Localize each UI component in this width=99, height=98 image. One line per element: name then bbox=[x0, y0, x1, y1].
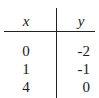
cell-y-1: -1 bbox=[66, 61, 90, 77]
header-x: x bbox=[11, 13, 41, 29]
cell-y-0: -2 bbox=[66, 43, 90, 59]
cell-x-0: 0 bbox=[11, 43, 41, 59]
cell-x-2: 4 bbox=[11, 79, 41, 95]
header-divider bbox=[4, 31, 95, 32]
cell-y-2: 0 bbox=[66, 79, 90, 95]
cell-x-1: 1 bbox=[11, 61, 41, 77]
header-y: y bbox=[66, 13, 96, 29]
column-divider bbox=[56, 8, 57, 98]
